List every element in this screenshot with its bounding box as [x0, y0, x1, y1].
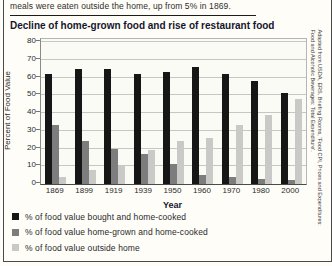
- bar: [111, 149, 118, 185]
- gridline: [41, 59, 306, 60]
- bar: [236, 125, 243, 184]
- chart-legend: % of food value bought and home-cooked% …: [12, 212, 208, 259]
- bar: [89, 170, 96, 184]
- bar: [59, 177, 66, 184]
- bar: [148, 150, 155, 184]
- y-tick-mark: [36, 93, 40, 94]
- bar: [75, 69, 82, 184]
- legend-label: % of food value home-grown and home-cook…: [25, 227, 208, 237]
- legend-item: % of food value home-grown and home-cook…: [12, 228, 208, 237]
- bar: [281, 93, 288, 184]
- legend-swatch: [12, 244, 19, 251]
- bar: [295, 99, 302, 184]
- bar: [118, 166, 125, 184]
- bar: [192, 67, 199, 184]
- bar: [45, 74, 52, 184]
- y-tick-mark: [36, 129, 40, 130]
- y-tick-mark: [36, 147, 40, 148]
- source-credit-line-1: Adapted from USDA, ERS, Briefing Rooms, …: [316, 30, 323, 258]
- bar: [52, 125, 59, 184]
- y-tick-label: 50: [14, 89, 36, 98]
- bar: [258, 179, 265, 184]
- x-tick-label: 2000: [272, 186, 308, 195]
- bar: [229, 177, 236, 184]
- bar: [170, 164, 177, 184]
- bar: [104, 69, 111, 184]
- legend-item: % of food value outside home: [12, 243, 208, 252]
- y-tick-mark: [36, 182, 40, 183]
- bar: [222, 74, 229, 184]
- y-tick-mark: [36, 40, 40, 41]
- y-axis-label: Percent of Food Value: [3, 38, 14, 183]
- y-tick-label: 10: [14, 160, 36, 169]
- bar: [251, 81, 258, 184]
- y-tick-label: 60: [14, 72, 36, 81]
- y-tick-mark: [36, 76, 40, 77]
- y-tick-mark: [36, 111, 40, 112]
- y-tick-mark: [36, 164, 40, 165]
- y-tick-label: 80: [14, 36, 36, 45]
- legend-swatch: [12, 229, 19, 236]
- bar: [141, 154, 148, 184]
- y-tick-label: 20: [14, 143, 36, 152]
- legend-label: % of food value bought and home-cooked: [25, 212, 186, 222]
- y-tick-label: 40: [14, 107, 36, 116]
- y-tick-label: 70: [14, 54, 36, 63]
- y-tick-label: 30: [14, 125, 36, 134]
- plot-area: [40, 38, 307, 185]
- bar: [265, 115, 272, 184]
- legend-label: % of food value outside home: [25, 243, 140, 253]
- y-tick-mark: [36, 58, 40, 59]
- bar: [206, 138, 213, 184]
- y-tick-label: 0: [14, 178, 36, 187]
- bar: [163, 72, 170, 184]
- bar: [288, 180, 295, 184]
- bar: [134, 74, 141, 184]
- gridline: [41, 41, 306, 42]
- bar: [82, 141, 89, 184]
- legend-swatch: [12, 213, 19, 220]
- bar: [199, 175, 206, 184]
- legend-item: % of food value bought and home-cooked: [12, 212, 208, 221]
- x-axis-label: Year: [40, 200, 305, 210]
- bar: [177, 141, 184, 184]
- source-credit: Adapted from USDA, ERS, Briefing Rooms, …: [310, 30, 323, 258]
